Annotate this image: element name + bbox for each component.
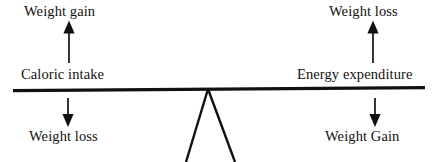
triangular-fulcrum — [186, 89, 235, 162]
balance-beam — [13, 88, 425, 91]
label-top-left-weight-gain: Weight gain — [24, 3, 95, 19]
right-down-arrow-icon — [369, 98, 380, 127]
label-bottom-right-weight-gain: Weight Gain — [325, 128, 399, 144]
label-bottom-left-weight-loss: Weight loss — [29, 128, 98, 144]
label-left-caloric-intake: Caloric intake — [21, 66, 104, 82]
seesaw-diagram: Weight gain Caloric intake Weight loss W… — [0, 0, 438, 162]
label-right-energy-expenditure: Energy expenditure — [297, 66, 412, 82]
left-down-arrow-icon — [62, 98, 73, 127]
right-up-arrow-icon — [367, 21, 378, 64]
left-up-arrow-icon — [63, 21, 74, 64]
label-top-right-weight-loss: Weight loss — [329, 3, 398, 19]
